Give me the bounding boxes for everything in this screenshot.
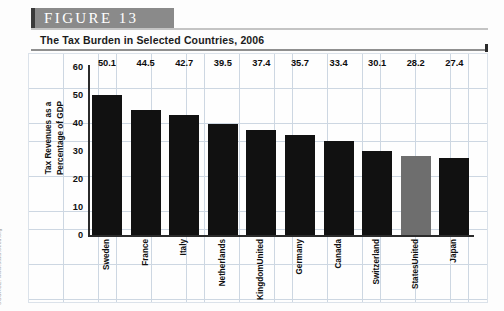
- bar[interactable]: 44.5: [131, 110, 161, 235]
- x-axis-category-label-line: Sweden: [102, 239, 113, 270]
- bar[interactable]: 39.5: [208, 124, 238, 235]
- y-axis-tick-40: 40: [73, 118, 88, 128]
- x-axis-category-label-line: Germany: [295, 239, 306, 275]
- y-axis-tick-60: 60: [73, 62, 88, 72]
- y-axis-tick-0: 0: [78, 230, 88, 240]
- x-axis-category-label: Switzerland: [372, 239, 383, 285]
- bar[interactable]: 50.1: [92, 95, 122, 235]
- bar-column[interactable]: 30.1Switzerland: [362, 67, 392, 235]
- bar-column[interactable]: 33.4Canada: [324, 67, 354, 235]
- figure-number-label: FIGURE 13: [35, 10, 139, 27]
- x-axis-category-label-line: Italy: [179, 239, 190, 255]
- x-axis-category-label-line: United: [256, 239, 267, 264]
- bar[interactable]: 28.2: [401, 156, 431, 235]
- figure-subtitle: The Tax Burden in Selected Countries, 20…: [31, 34, 264, 46]
- bar-series: 50.1Sweden44.5France42.7Italy39.5Netherl…: [88, 67, 470, 235]
- x-axis-line: [88, 235, 474, 237]
- x-axis-category-label: Netherlands: [218, 239, 229, 286]
- y-axis-tick-20: 20: [73, 174, 88, 184]
- figure-subtitle-container: The Tax Burden in Selected Countries, 20…: [31, 31, 488, 48]
- bar-column[interactable]: 50.1Sweden: [92, 67, 122, 235]
- x-axis-category-label-line: Netherlands: [218, 239, 229, 286]
- bar[interactable]: 30.1: [362, 151, 392, 235]
- figure-banner: FIGURE 13: [31, 8, 174, 28]
- bar-column[interactable]: 42.7Italy: [169, 67, 199, 235]
- x-axis-category-label: Italy: [179, 239, 190, 255]
- bar-column[interactable]: 28.2UnitedStates: [401, 67, 431, 235]
- plot-area: 6050403020100 50.1Sweden44.5France42.7It…: [88, 67, 470, 235]
- bar-column[interactable]: 35.7Germany: [285, 67, 315, 235]
- bar-column[interactable]: 37.4UnitedKingdom: [246, 67, 276, 235]
- x-axis-category-label: UnitedStates: [411, 239, 422, 289]
- bar-column[interactable]: 44.5France: [131, 67, 161, 235]
- bar-value-label: 28.2: [407, 58, 425, 68]
- x-axis-category-label-line: Canada: [333, 239, 344, 269]
- y-axis-tick-30: 30: [73, 146, 88, 156]
- x-axis-category-label: Japan: [449, 239, 460, 263]
- bar-value-label: 35.7: [291, 58, 309, 68]
- x-axis-category-label-line: States: [411, 264, 422, 289]
- bar-value-label: 27.4: [445, 58, 463, 68]
- x-axis-category-label-line: Kingdom: [256, 264, 267, 299]
- bar-column[interactable]: 39.5Netherlands: [208, 67, 238, 235]
- bar[interactable]: 35.7: [285, 135, 315, 235]
- bar-value-label: 37.4: [252, 58, 270, 68]
- x-axis-category-label-line: France: [140, 239, 151, 266]
- bar-value-label: 33.4: [330, 58, 348, 68]
- bar-column[interactable]: 27.4Japan: [439, 67, 469, 235]
- subtitle-endcap-mark: [485, 44, 489, 52]
- x-axis-category-label-line: Switzerland: [372, 239, 383, 285]
- bar-value-label: 42.7: [175, 58, 193, 68]
- x-axis-category-label: Germany: [295, 239, 306, 275]
- x-axis-category-label-line: Japan: [449, 239, 460, 263]
- x-axis-category-label: Canada: [333, 239, 344, 269]
- y-axis-title-line-1: Tax Revenues as a: [43, 102, 55, 175]
- bar[interactable]: 33.4: [324, 141, 354, 235]
- banner-rule: [31, 28, 488, 30]
- y-axis-tick-10: 10: [73, 202, 88, 212]
- bar[interactable]: 37.4: [246, 130, 276, 235]
- bar-value-label: 39.5: [214, 58, 232, 68]
- bar-value-label: 30.1: [368, 58, 386, 68]
- bar[interactable]: 42.7: [169, 115, 199, 235]
- x-axis-category-label-line: United: [411, 239, 422, 264]
- x-axis-category-label: France: [140, 239, 151, 266]
- bar-chart: Tax Revenues as a Percentage of GDP 6050…: [28, 53, 488, 303]
- y-axis-title-line-2: Percentage of GDP: [55, 101, 67, 175]
- x-axis-category-label: UnitedKingdom: [256, 239, 267, 300]
- y-axis-tick-50: 50: [73, 90, 88, 100]
- bar-value-label: 44.5: [137, 58, 155, 68]
- bar[interactable]: 27.4: [439, 158, 469, 235]
- source-note: SOURCE: www.stats.oecd.org: [0, 228, 2, 305]
- bar-value-label: 50.1: [98, 58, 116, 68]
- y-axis-title: Tax Revenues as a Percentage of GDP: [42, 63, 68, 213]
- x-axis-category-label: Sweden: [102, 239, 113, 270]
- figure-page: FIGURE 13 The Tax Burden in Selected Cou…: [0, 0, 504, 311]
- subtitle-rule: [31, 49, 488, 51]
